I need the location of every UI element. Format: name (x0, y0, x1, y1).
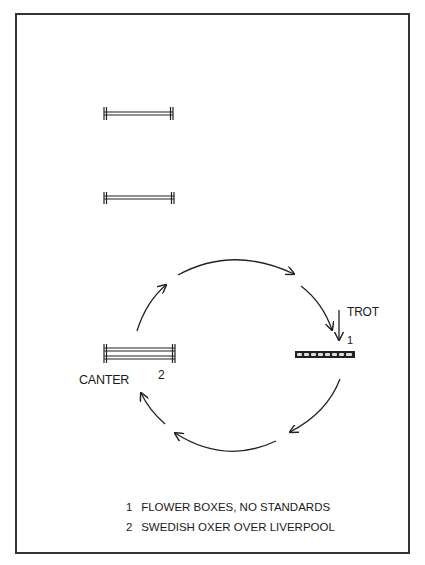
path-arrow-lower-left (141, 393, 165, 424)
legend: 1 FLOWER BOXES, NO STANDARDS 2 SWEDISH O… (126, 497, 335, 537)
fence-1-flower-boxes (295, 351, 355, 358)
fence-rail-top (104, 107, 173, 120)
path-arrow-top (178, 260, 294, 275)
legend-text: FLOWER BOXES, NO STANDARDS (141, 501, 330, 513)
fence-2-oxer (104, 344, 175, 363)
path-arrow-left-up (137, 285, 166, 331)
canter-label: CANTER (79, 373, 129, 387)
legend-number: 2 (126, 517, 138, 537)
legend-item: 2 SWEDISH OXER OVER LIVERPOOL (126, 517, 335, 537)
legend-item: 1 FLOWER BOXES, NO STANDARDS (126, 497, 335, 517)
trot-label: TROT (347, 305, 379, 319)
fence-2-number: 2 (158, 368, 164, 382)
course-diagram (0, 0, 425, 565)
legend-text: SWEDISH OXER OVER LIVERPOOL (141, 521, 335, 533)
path-arrow-right-down (301, 286, 332, 330)
fence-1-number: 1 (347, 334, 353, 346)
legend-number: 1 (126, 497, 138, 517)
path-arrow-lower-right (290, 379, 340, 432)
path-arrow-bottom (175, 433, 276, 451)
fence-rail-middle (104, 192, 174, 204)
